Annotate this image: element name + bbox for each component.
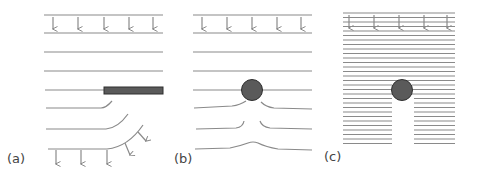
panel-a-label: (a) (7, 151, 25, 166)
panel-c (343, 13, 455, 144)
panel-b-label: (b) (174, 151, 192, 166)
barrier-plate (104, 87, 163, 94)
panel-b-arrows-incoming (202, 17, 301, 29)
panel-b (193, 15, 312, 150)
diffraction-diagram (0, 0, 485, 179)
obstacle-circle-b (242, 80, 263, 101)
diffraction-figure: (a) (b) (c) (0, 0, 485, 179)
obstacle-circle-c (392, 80, 413, 101)
panel-a-arrows-incoming (53, 17, 153, 29)
panel-a-wavefronts (44, 15, 163, 149)
panel-c-label: (c) (324, 149, 341, 164)
panel-a (44, 15, 163, 164)
